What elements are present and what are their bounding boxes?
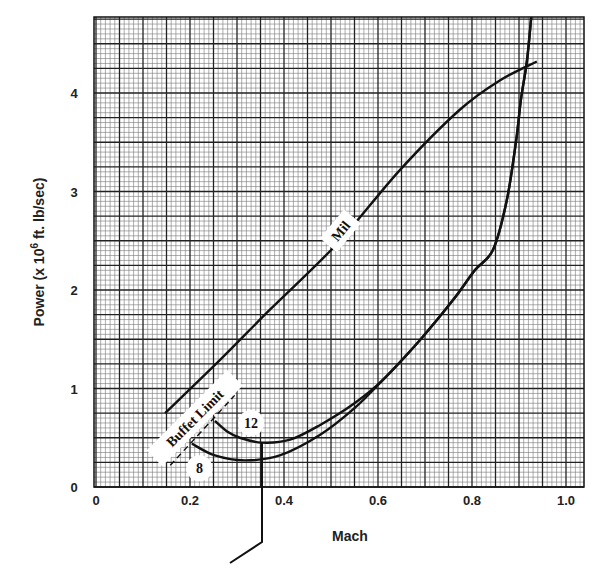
power-vs-mach-chart: MilBuffet Limit128 00.20.40.60.81.0 0123…: [0, 0, 601, 570]
x-tick-label: 0.6: [369, 493, 387, 508]
y-axis-title: Power (x 106 ft. lb/sec): [29, 178, 47, 327]
y-axis-title-suffix: ft. lb/sec): [31, 178, 47, 243]
svg-text:12: 12: [244, 416, 258, 431]
minor-grid: [94, 17, 584, 487]
y-tick-label: 4: [70, 86, 78, 101]
label-8: 8: [186, 455, 212, 481]
y-tick-label: 2: [70, 283, 77, 298]
x-tick-label: 0.8: [463, 493, 481, 508]
x-axis-title: Mach: [332, 528, 368, 544]
y-tick-label: 1: [70, 382, 77, 397]
x-axis-ticks: 00.20.40.60.81.0: [92, 493, 575, 508]
x-tick-label: 0.4: [275, 493, 294, 508]
y-tick-label: 3: [70, 185, 77, 200]
y-tick-label: 0: [70, 480, 77, 495]
x-tick-label: 0: [92, 493, 99, 508]
curve-mil: [165, 61, 537, 413]
y-axis-ticks: 01234: [70, 86, 78, 495]
y-axis-title-prefix: Power (x 10: [31, 248, 47, 326]
plot-frame: [94, 17, 584, 487]
svg-text:8: 8: [196, 461, 203, 476]
label-12: 12: [238, 410, 264, 436]
x-tick-label: 0.2: [181, 493, 199, 508]
curve-8: [192, 17, 531, 460]
x-tick-label: 1.0: [557, 493, 575, 508]
major-grid: [94, 17, 584, 487]
